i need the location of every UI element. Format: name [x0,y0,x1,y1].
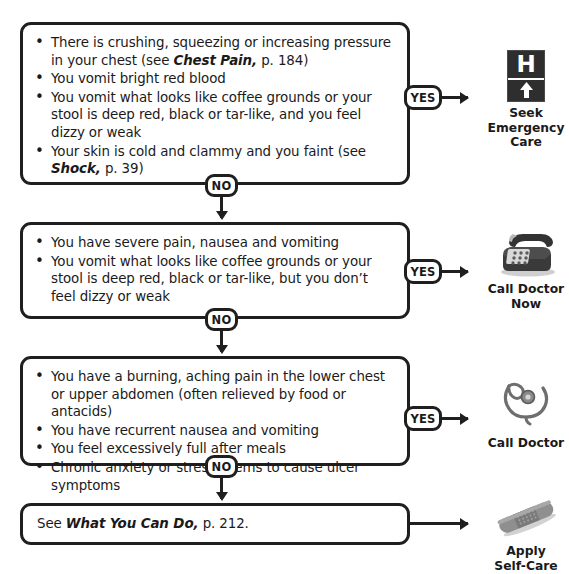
list-item: There is crushing, squeezing or increasi… [33,34,393,69]
list-item: You have severe pain, nausea and vomitin… [33,234,393,252]
hospital-sign-icon: H [472,40,569,102]
cross-reference[interactable]: What You Can Do, [66,516,199,531]
outcome-label: Seek Emergency Care [472,106,569,150]
no-arrow-2 [216,345,228,354]
list-item: Your skin is cold and clammy and you fai… [33,143,393,178]
cross-reference[interactable]: Chest Pain, [173,53,257,68]
outcome-label: Call Doctor Now [472,282,569,311]
outcome-label: Call Doctor [472,436,569,451]
decision-box-1-content: There is crushing, squeezing or increasi… [23,25,407,188]
list-item: You have a burning, aching pain in the l… [33,368,393,421]
yes-badge-1[interactable]: YES [404,85,442,110]
outcome-label: Apply Self-Care [472,544,569,573]
outcome-call-doctor-now[interactable]: Call Doctor Now [472,216,569,311]
list-item: You have recurrent nausea and vomiting [33,422,393,440]
decision-box-3-content: You have a burning, aching pain in the l… [23,359,407,504]
telephone-icon [472,216,569,278]
no-badge-1[interactable]: NO [205,174,238,197]
no-badge-3[interactable]: NO [205,455,238,478]
stethoscope-icon [472,370,569,432]
yes-arrow-3 [460,413,469,425]
list-item: You vomit what looks like coffee grounds… [33,253,393,306]
self-care-reference-line: See What You Can Do, p. 212. [37,515,393,533]
bandage-icon [472,478,569,540]
decision-box-1[interactable]: There is crushing, squeezing or increasi… [20,22,410,185]
symptom-list-1: There is crushing, squeezing or increasi… [33,34,393,178]
yes-arrow-1 [460,92,469,104]
decision-box-2-content: You have severe pain, nausea and vomitin… [23,225,407,315]
action-box-4[interactable]: See What You Can Do, p. 212. [20,503,410,545]
outcome-arrow-4 [460,518,469,530]
no-arrow-1 [216,211,228,220]
symptom-list-2: You have severe pain, nausea and vomitin… [33,234,393,305]
decision-box-3[interactable]: You have a burning, aching pain in the l… [20,356,410,466]
no-badge-2[interactable]: NO [205,308,238,331]
yes-arrow-2 [460,266,469,278]
yes-badge-2[interactable]: YES [404,259,442,284]
no-arrow-3 [216,492,228,501]
outcome-apply-self-care[interactable]: Apply Self-Care [472,478,569,573]
action-box-4-content: See What You Can Do, p. 212. [23,506,407,542]
yes-badge-3[interactable]: YES [404,406,442,431]
outcome-call-doctor[interactable]: Call Doctor [472,370,569,451]
decision-box-2[interactable]: You have severe pain, nausea and vomitin… [20,222,410,319]
cross-reference[interactable]: Shock, [51,161,101,176]
list-item: You vomit bright red blood [33,70,393,88]
list-item: You vomit what looks like coffee grounds… [33,89,393,142]
outcome-seek-emergency-care[interactable]: H Seek Emergency Care [472,40,569,150]
